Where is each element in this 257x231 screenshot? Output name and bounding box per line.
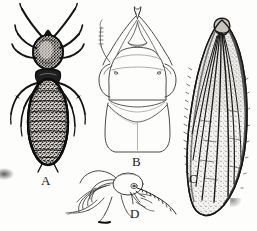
- illustration-plate: A B C D: [0, 0, 257, 231]
- panel-b-artwork: [99, 7, 176, 152]
- plate-artwork: [0, 0, 257, 231]
- figure-label-c: C: [189, 172, 198, 185]
- figure-label-b: B: [132, 155, 141, 168]
- figure-label-a: A: [41, 174, 51, 187]
- panel-a-artwork: [11, 4, 86, 173]
- figure-label-d: D: [130, 207, 140, 220]
- panel-d-artwork: [66, 171, 176, 223]
